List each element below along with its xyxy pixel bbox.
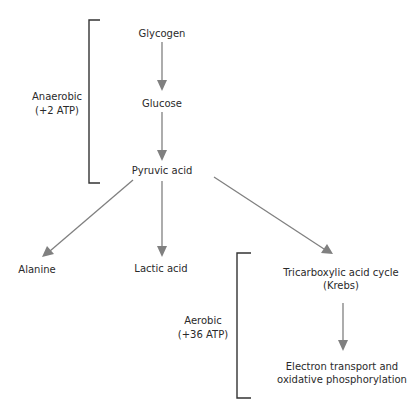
aerobic-label: Aerobic <box>184 315 221 326</box>
node-glucose: Glucose <box>142 98 182 109</box>
arrow-pyruvic-to-lactic <box>157 181 167 257</box>
node-alanine: Alanine <box>18 264 55 275</box>
node-pyruvic-acid: Pyruvic acid <box>132 165 193 176</box>
anaerobic-label: Anaerobic <box>32 91 82 102</box>
glycolysis-pathway-diagram: Anaerobic (+2 ATP) Glycogen Glucose Pyru… <box>0 0 419 420</box>
arrow-pyruvic-to-alanine <box>42 180 133 257</box>
aerobic-bracket <box>237 253 251 398</box>
node-lactic-acid: Lactic acid <box>134 263 187 274</box>
node-glycogen: Glycogen <box>139 28 186 39</box>
arrow-pyruvic-to-tca <box>214 177 333 254</box>
anaerobic-atp-label: (+2 ATP) <box>35 105 79 116</box>
node-tca-krebs: (Krebs) <box>323 280 359 291</box>
aerobic-atp-label: (+36 ATP) <box>178 329 228 340</box>
arrow-glycogen-to-glucose <box>157 42 167 91</box>
anaerobic-bracket <box>89 20 100 183</box>
node-electron-transport: Electron transport and <box>286 361 398 372</box>
arrow-glucose-to-pyruvic <box>157 112 167 161</box>
node-oxidative-phosphorylation: oxidative phosphorylation <box>277 374 407 385</box>
arrow-tca-to-electron-transport <box>338 303 348 351</box>
node-tca-cycle: Tricarboxylic acid cycle <box>282 267 398 278</box>
